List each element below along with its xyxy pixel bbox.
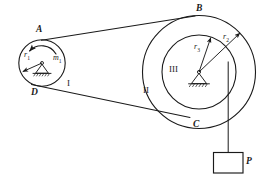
mechanics-diagram: A B C D I II III r1 r2 r3 m1 P bbox=[0, 0, 260, 183]
moment-label-m1-sub: 1 bbox=[59, 58, 62, 64]
radius-arrow-r1 bbox=[23, 63, 42, 72]
pin-support-icon-large bbox=[188, 70, 210, 87]
radius-label-r1-sub: 1 bbox=[27, 55, 30, 61]
belt-upper-strand bbox=[42, 16, 196, 40]
body-label-pulley-small: I bbox=[67, 79, 70, 88]
point-label-c: C bbox=[193, 120, 199, 130]
load-label-p: P bbox=[246, 157, 252, 167]
moment-label-m1: m1 bbox=[53, 54, 62, 64]
point-label-b: B bbox=[196, 4, 202, 14]
point-label-d: D bbox=[31, 88, 38, 98]
body-label-pulley-large-outer: II bbox=[143, 86, 149, 95]
radius-arrow-r2 bbox=[199, 33, 240, 72]
radius-label-r3: r3 bbox=[194, 43, 200, 53]
pin-support-icon-small bbox=[33, 62, 52, 77]
radius-label-r2: r2 bbox=[223, 33, 229, 43]
point-label-a: A bbox=[36, 25, 42, 35]
weight-block-icon bbox=[214, 153, 244, 174]
radius-label-r3-sub: 3 bbox=[197, 47, 200, 53]
radius-label-r1: r1 bbox=[24, 51, 30, 61]
body-label-pulley-large-inner: III bbox=[169, 65, 178, 74]
radius-label-r2-sub: 2 bbox=[226, 37, 229, 43]
